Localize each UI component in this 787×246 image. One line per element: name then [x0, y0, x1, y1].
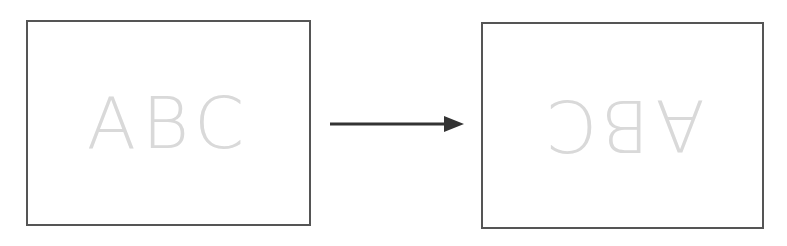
source-frame: ABC [26, 20, 311, 226]
rotated-text: ABC [541, 90, 704, 162]
right-arrow-icon [328, 112, 468, 136]
source-text: ABC [87, 87, 250, 159]
result-frame: ABC [481, 22, 764, 229]
